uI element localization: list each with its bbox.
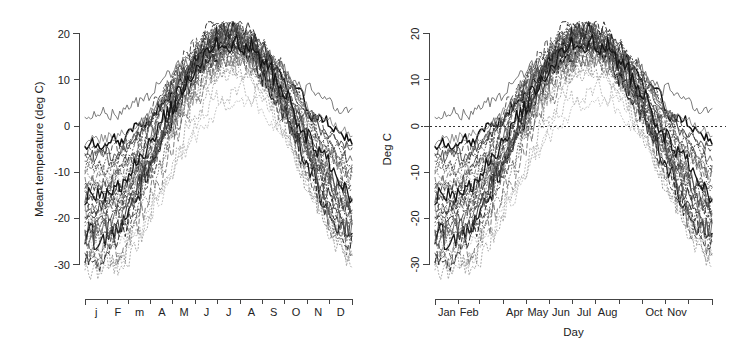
x-axis-tick-label: Apr: [506, 306, 523, 318]
temperature-series-line: [435, 39, 712, 227]
x-axis-tick-label: Jul: [577, 306, 591, 318]
x-axis-tick-label: Jan: [438, 306, 456, 318]
x-axis-tick-label: A: [248, 306, 256, 318]
figure-canvas: 20100-10-20-30Mean temperature (deg C)jF…: [0, 0, 734, 357]
y-axis-tick-label: -20: [409, 210, 421, 226]
temperature-series-line: [85, 78, 352, 274]
y-axis-tick-label: 20: [409, 28, 421, 40]
x-axis-tick-label: Aug: [598, 306, 618, 318]
y-axis-title: Mean temperature (deg C): [33, 81, 45, 217]
y-axis-tick-label: 10: [409, 74, 421, 86]
series-group: [85, 21, 352, 279]
y-axis-tick-label: -20: [54, 212, 70, 224]
x-axis-tick-label: Jun: [552, 306, 570, 318]
x-axis-tick-label: N: [314, 306, 322, 318]
x-axis-title: Day: [563, 326, 584, 338]
x-axis-tick-label: M: [180, 306, 189, 318]
x-axis: JanFebAprMayJunJulAugOctNovDay: [435, 299, 712, 338]
x-axis-tick-label: D: [337, 306, 345, 318]
x-axis-tick-label: J: [226, 306, 232, 318]
temperature-series-line: [85, 39, 352, 227]
left-plot-svg: 20100-10-20-30Mean temperature (deg C)jF…: [0, 0, 367, 357]
y-axis-line: [423, 34, 429, 265]
x-axis-tick-label: m: [135, 306, 144, 318]
y-axis-tick-label: 20: [58, 28, 70, 40]
y-axis-tick-label: 0: [64, 120, 70, 132]
y-axis-tick-label: -10: [54, 166, 70, 178]
left-plot-panel: 20100-10-20-30Mean temperature (deg C)jF…: [0, 0, 367, 357]
y-axis-tick-label: 0: [409, 123, 421, 129]
x-axis-line: [435, 299, 712, 305]
x-axis-tick-label: Oct: [645, 306, 662, 318]
x-axis-line: [85, 299, 352, 305]
x-axis-tick-label: j: [94, 306, 97, 318]
x-axis: jFmAMJJASOND: [85, 299, 352, 318]
series-group: [435, 21, 712, 279]
x-axis-tick-label: Nov: [667, 306, 687, 318]
y-axis-tick-label: -10: [409, 164, 421, 180]
temperature-series-line: [435, 40, 712, 266]
x-axis-tick-label: O: [292, 306, 301, 318]
y-axis: 20100-10-20-30Deg C: [381, 28, 429, 273]
y-axis-line: [73, 34, 79, 265]
y-axis-tick-label: -30: [54, 259, 70, 271]
x-axis-tick-label: F: [115, 306, 122, 318]
y-axis-tick-label: -30: [409, 257, 421, 273]
x-axis-tick-label: J: [204, 306, 210, 318]
y-axis-tick-label: 10: [58, 74, 70, 86]
temperature-series-line: [85, 41, 352, 149]
x-axis-tick-label: S: [270, 306, 277, 318]
right-plot-svg: 20100-10-20-30Deg CJanFebAprMayJunJulAug…: [367, 0, 734, 357]
temperature-series-line: [85, 56, 352, 280]
y-axis: 20100-10-20-30Mean temperature (deg C): [33, 28, 79, 271]
x-axis-tick-label: Feb: [460, 306, 479, 318]
temperature-series-line: [435, 56, 712, 280]
y-axis-title: Deg C: [381, 133, 393, 166]
temperature-series-line: [435, 41, 712, 149]
temperature-series-line: [435, 78, 712, 274]
x-axis-tick-label: May: [527, 306, 548, 318]
x-axis-tick-label: A: [158, 306, 166, 318]
right-plot-panel: 20100-10-20-30Deg CJanFebAprMayJunJulAug…: [367, 0, 734, 357]
